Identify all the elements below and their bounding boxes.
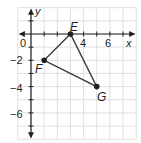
y-axis-label: y: [34, 5, 42, 17]
x-tick-label-4: 4: [80, 37, 86, 49]
x-axis-label: x: [125, 37, 132, 49]
point-label-g: G: [97, 90, 106, 104]
origin-label: 0: [20, 37, 26, 49]
coordinate-plane: y x 0 4 6 −2 −4 −6 E F G: [0, 0, 141, 143]
point-g-marker: [94, 84, 100, 90]
y-axis-down-arrow-icon: [28, 132, 34, 138]
labels: y x 0 4 6 −2 −4 −6 E F G: [10, 5, 132, 120]
point-label-e: E: [70, 20, 79, 34]
y-tick-label-neg4: −4: [10, 82, 23, 94]
y-tick-label-neg6: −6: [10, 108, 23, 120]
y-axis-up-arrow-icon: [28, 9, 34, 15]
y-tick-label-neg2: −2: [10, 54, 23, 66]
point-label-f: F: [35, 62, 43, 76]
x-tick-label-6: 6: [105, 37, 111, 49]
